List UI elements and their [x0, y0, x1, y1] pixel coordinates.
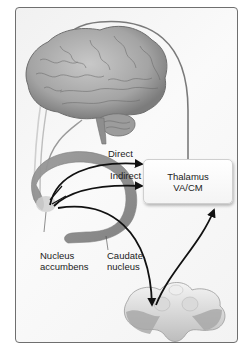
nucleus-accumbens-label: Nucleus accumbens [40, 250, 89, 272]
brain-illustration [26, 26, 167, 144]
indirect-label: Indirect [110, 170, 141, 181]
thalamus-sublabel: VA/CM [173, 182, 202, 193]
thalamus-box: Thalamus VA/CM [143, 159, 233, 204]
thalamus-label: Thalamus [167, 171, 209, 182]
cortico-striatal-line-2 [40, 100, 48, 195]
caudate-nucleus-label: Caudate nucleus [107, 250, 143, 272]
caudate-nucleus-illustration [31, 152, 136, 243]
direct-label: Direct [108, 148, 133, 159]
midbrain-section-illustration [124, 283, 225, 342]
nucleus-accumbens-pointer [44, 212, 46, 232]
